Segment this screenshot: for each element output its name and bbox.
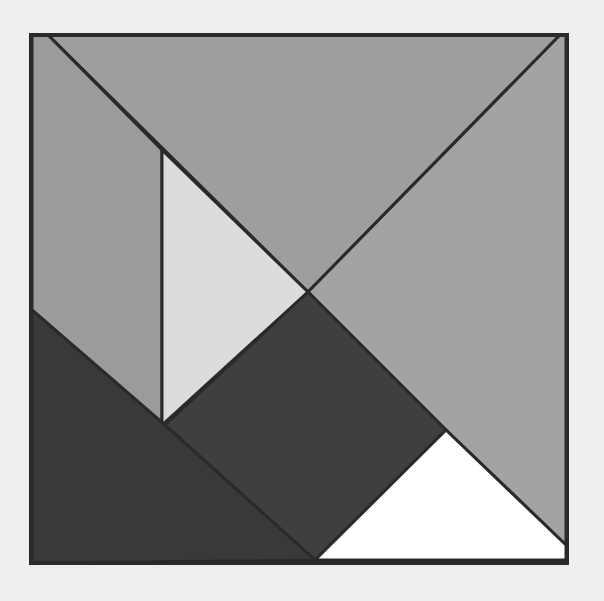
tangram-canvas bbox=[0, 0, 604, 601]
tangram-pieces bbox=[32, 35, 566, 563]
tangram-diagram bbox=[0, 0, 604, 601]
